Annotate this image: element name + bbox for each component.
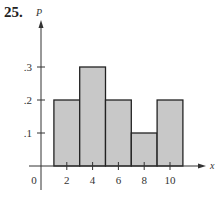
x-tick-label: 6 — [116, 174, 122, 186]
y-axis-arrow-icon — [39, 20, 44, 28]
histogram-bar — [157, 100, 183, 166]
histogram-chart: xP2468100.1.2.3 — [0, 0, 221, 197]
x-axis-arrow-icon — [198, 164, 206, 169]
histogram-bar — [80, 67, 106, 166]
x-tick-label: 2 — [64, 174, 70, 186]
histogram-bar — [106, 100, 132, 166]
x-tick-label: 10 — [165, 174, 177, 186]
y-axis-label: P — [35, 7, 42, 18]
x-tick-label: 8 — [141, 174, 147, 186]
x-axis-label: x — [209, 160, 215, 171]
origin-label: 0 — [31, 174, 37, 186]
histogram-bar — [54, 100, 80, 166]
x-tick-label: 4 — [90, 174, 96, 186]
histogram-bar — [131, 133, 157, 166]
y-tick-label: .3 — [24, 61, 33, 73]
y-tick-label: .1 — [24, 127, 32, 139]
y-tick-label: .2 — [24, 94, 32, 106]
